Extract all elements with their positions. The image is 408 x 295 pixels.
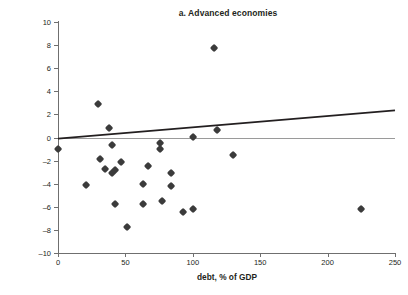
y-tick <box>54 161 58 162</box>
y-tick-label: 2 <box>47 110 51 119</box>
y-tick <box>54 114 58 115</box>
y-tick <box>54 68 58 69</box>
y-tick-label: –6 <box>43 202 51 211</box>
scatter-chart: a. Advanced economies 1086420–2–4–6–8–10… <box>0 0 408 295</box>
y-tick-label: 6 <box>47 64 51 73</box>
x-tick-label: 0 <box>56 258 60 267</box>
y-tick-label: 10 <box>43 18 51 27</box>
y-tick <box>54 184 58 185</box>
y-tick-label: 0 <box>47 133 51 142</box>
x-tick <box>125 253 126 257</box>
x-tick <box>58 253 59 257</box>
y-tick <box>54 22 58 23</box>
x-tick-label: 200 <box>321 258 334 267</box>
y-tick-label: –8 <box>43 225 51 234</box>
y-tick-label: 4 <box>47 87 51 96</box>
x-axis-title: debt, % of GDP <box>58 272 396 282</box>
x-tick <box>328 253 329 257</box>
x-tick-label: 50 <box>121 258 129 267</box>
y-tick <box>54 230 58 231</box>
chart-title: a. Advanced economies <box>118 8 338 18</box>
y-tick <box>54 91 58 92</box>
y-tick <box>54 207 58 208</box>
y-tick <box>54 138 58 139</box>
y-tick <box>54 45 58 46</box>
x-tick <box>193 253 194 257</box>
x-tick <box>395 253 396 257</box>
trend-line <box>58 22 395 253</box>
x-tick <box>260 253 261 257</box>
y-tick-label: –10 <box>38 249 51 258</box>
y-tick-label: 8 <box>47 41 51 50</box>
y-tick-label: –4 <box>43 179 51 188</box>
x-tick-label: 250 <box>389 258 402 267</box>
plot-area: 1086420–2–4–6–8–10 050100150200250 <box>58 22 395 253</box>
y-tick-label: –2 <box>43 156 51 165</box>
x-tick-label: 150 <box>254 258 267 267</box>
x-tick-label: 100 <box>187 258 200 267</box>
